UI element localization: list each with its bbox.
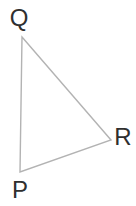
triangle-outline [20, 37, 111, 172]
diagram-canvas: Q R P [0, 0, 136, 206]
vertex-label-r: R [114, 125, 131, 149]
vertex-label-p: P [12, 178, 28, 202]
vertex-label-q: Q [10, 6, 29, 30]
